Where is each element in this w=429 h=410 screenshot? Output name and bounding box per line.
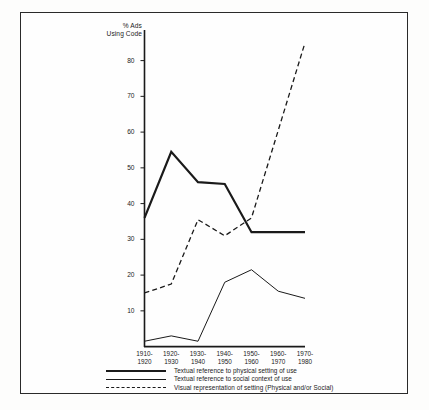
solid-thick-line-icon bbox=[106, 366, 166, 374]
y-tick-label: 30 bbox=[111, 235, 135, 242]
legend-item: Textual reference to social context of u… bbox=[106, 375, 333, 384]
y-tick-label: 10 bbox=[111, 307, 135, 314]
dashed-line-icon bbox=[106, 383, 166, 391]
data-series-line bbox=[145, 270, 306, 342]
data-series-line bbox=[145, 152, 306, 232]
x-tick-label: 1970- 1980 bbox=[285, 350, 325, 366]
legend-item-label: Textual reference to social context of u… bbox=[174, 375, 292, 382]
chart-legend: Textual reference to physical setting of… bbox=[106, 366, 333, 392]
y-tick-label: 70 bbox=[111, 92, 135, 99]
axis-lines bbox=[144, 30, 305, 347]
y-tick-label: 50 bbox=[111, 164, 135, 171]
legend-item-label: Textual reference to physical setting of… bbox=[174, 367, 297, 374]
y-tick-label: 40 bbox=[111, 200, 135, 207]
y-tick-label: 80 bbox=[111, 57, 135, 64]
y-tick-label: 20 bbox=[111, 271, 135, 278]
legend-item-label: Visual representation of setting (Physic… bbox=[174, 384, 333, 391]
data-series-group bbox=[145, 43, 306, 342]
chart-figure: % Ads Using Code 1020304050607080 1910- … bbox=[0, 0, 429, 410]
data-series-line bbox=[145, 43, 306, 293]
plot-area bbox=[0, 0, 429, 410]
y-tick-label: 60 bbox=[111, 128, 135, 135]
legend-item: Visual representation of setting (Physic… bbox=[106, 383, 333, 392]
solid-thin-line-icon bbox=[106, 375, 166, 383]
legend-item: Textual reference to physical setting of… bbox=[106, 366, 333, 375]
